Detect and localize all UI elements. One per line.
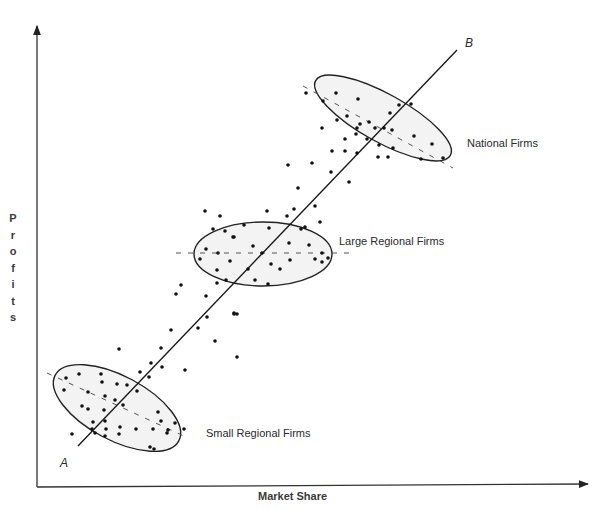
- scatter-diagram: A B Small Regional Firms Large Regional …: [0, 0, 606, 509]
- national-ellipse: [304, 60, 462, 177]
- x-axis-title: Market Share: [258, 490, 327, 502]
- national-label: National Firms: [467, 137, 538, 149]
- trend-line-ab: [78, 50, 457, 446]
- point-a-label: A: [59, 456, 68, 470]
- x-axis: [37, 484, 588, 487]
- small-regional-label: Small Regional Firms: [206, 427, 311, 439]
- point-b-label: B: [465, 36, 473, 50]
- small-regional-ellipse: [40, 347, 194, 469]
- large-regional-label: Large Regional Firms: [339, 235, 445, 247]
- y-axis-title: P r o f i t s: [6, 210, 20, 326]
